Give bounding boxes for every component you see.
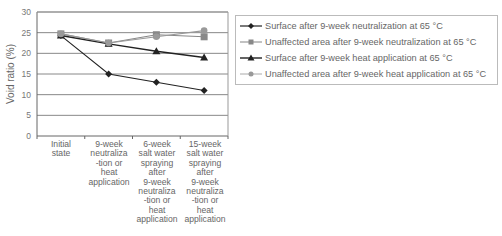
series-line bbox=[61, 36, 204, 91]
legend-label: Surface after 9-week heat application at… bbox=[265, 53, 453, 63]
legend-item-surface-neutralization: Surface after 9-week neutralization at 6… bbox=[240, 19, 443, 33]
gridlines bbox=[37, 12, 228, 115]
legend-item-surface-heat: Surface after 9-week heat application at… bbox=[240, 51, 453, 65]
y-tick-label: 5 bbox=[26, 110, 31, 120]
diamond-marker-icon bbox=[153, 79, 160, 86]
data-series bbox=[57, 27, 208, 94]
legend-label: Unaffected area after 9-week neutralizat… bbox=[265, 37, 476, 47]
y-tick-label: 15 bbox=[22, 69, 32, 79]
y-tick-label: 20 bbox=[22, 48, 32, 58]
diamond-marker-icon bbox=[201, 87, 208, 94]
circle-marker-icon bbox=[201, 27, 208, 34]
circle-marker-icon bbox=[240, 69, 262, 79]
circle-marker-icon bbox=[58, 31, 65, 38]
x-category-label-1: 9-week neutraliza -tion or heat applicat… bbox=[84, 140, 134, 187]
legend-item-unaffected-heat: Unaffected area after 9-week heat applic… bbox=[240, 67, 486, 81]
y-tick-label: 25 bbox=[22, 28, 32, 38]
x-category-label-2: 6-week salt water spraying after 9-week … bbox=[132, 140, 182, 225]
legend-label: Surface after 9-week neutralization at 6… bbox=[265, 21, 443, 31]
x-category-label-0: Initial state bbox=[36, 140, 86, 159]
y-tick-label: 0 bbox=[26, 131, 31, 141]
y-tick-label: 10 bbox=[22, 90, 32, 100]
legend-label: Unaffected area after 9-week heat applic… bbox=[265, 69, 486, 79]
square-marker-icon bbox=[240, 37, 262, 47]
triangle-marker-icon bbox=[240, 53, 262, 63]
y-axis-label: Void ratio (%) bbox=[5, 44, 16, 104]
legend-item-unaffected-neutralization: Unaffected area after 9-week neutralizat… bbox=[240, 35, 476, 49]
diamond-marker-icon bbox=[240, 21, 262, 31]
circle-marker-icon bbox=[105, 40, 112, 47]
x-category-label-3: 15-week salt water spraying after 9-week… bbox=[180, 140, 230, 225]
square-marker-icon bbox=[201, 33, 208, 40]
circle-marker-icon bbox=[153, 34, 160, 41]
legend: Surface after 9-week neutralization at 6… bbox=[235, 15, 498, 85]
y-tick-label: 30 bbox=[22, 7, 32, 17]
